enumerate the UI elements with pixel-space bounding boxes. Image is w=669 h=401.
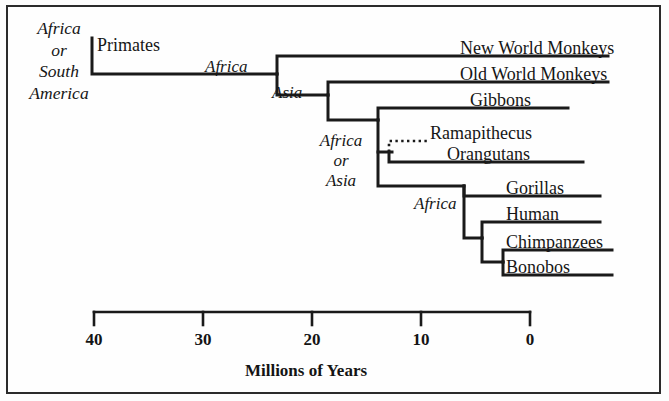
tip-label-orangutans: Orangutans [447, 145, 530, 163]
branch-hominid-stem [464, 186, 482, 238]
tip-label-human: Human [506, 205, 559, 223]
origin-note-line-1: Africa [26, 18, 92, 40]
axis-tick-label-40: 40 [74, 330, 114, 350]
branch-catarrhine-stem [328, 95, 378, 120]
tip-label-new-world-monkeys: New World Monkeys [460, 39, 614, 57]
origin-note-line-2: or [26, 40, 92, 62]
axis-title: Millions of Years [0, 361, 612, 381]
axis-tick-label-0: 0 [510, 330, 550, 350]
node-label-africa-or-asia: Africa or Asia [310, 131, 372, 191]
axis-tick-label-10: 10 [401, 330, 441, 350]
root-label-primates: Primates [97, 35, 160, 56]
node-label-africa-or-asia-line-2: or [310, 151, 372, 171]
origin-note: Africa or South America [26, 18, 92, 105]
tip-label-chimpanzees: Chimpanzees [506, 233, 603, 251]
axis-tick-label-20: 20 [292, 330, 332, 350]
tip-label-gorillas: Gorillas [506, 179, 564, 197]
branch-pan-stem [482, 238, 503, 262]
tip-label-gibbons: Gibbons [470, 91, 531, 109]
origin-note-line-3: South [26, 61, 92, 83]
tip-label-bonobos: Bonobos [506, 258, 570, 276]
origin-note-line-4: America [26, 83, 92, 105]
phylogenetic-tree-figure: Africa or South America Primates Africa … [0, 0, 669, 401]
node-label-africa-hominid: Africa [414, 194, 457, 213]
axis-tick-label-30: 30 [183, 330, 223, 350]
node-label-africa-or-asia-line-3: Asia [310, 171, 372, 191]
node-label-africa-or-asia-line-1: Africa [310, 131, 372, 151]
branch-ramapithecus-dotted [389, 141, 427, 152]
tip-label-ramapithecus: Ramapithecus [430, 124, 532, 142]
tip-label-old-world-monkeys: Old World Monkeys [460, 65, 607, 83]
node-label-asia-catarrhine: Asia [272, 83, 302, 102]
node-label-africa-anthropoid: Africa [205, 57, 248, 76]
